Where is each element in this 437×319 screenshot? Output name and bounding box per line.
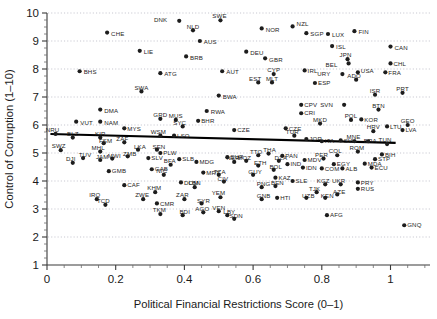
scatter-point-label: SYC xyxy=(173,119,186,126)
scatter-point-label: MLT xyxy=(266,75,278,82)
scatter-point xyxy=(260,26,264,30)
scatter-point-label: COL xyxy=(329,147,342,154)
scatter-point xyxy=(122,183,126,187)
scatter-point-label: BDI xyxy=(179,208,190,215)
scatter-point xyxy=(155,201,159,205)
scatter-point-label: DJI xyxy=(66,155,76,162)
scatter-point-label: ATG xyxy=(164,70,177,77)
scatter-point-label: WSM xyxy=(151,128,166,135)
scatter-point-label: LIE xyxy=(144,48,154,55)
scatter-point-label: BHS xyxy=(84,68,97,75)
scatter-point-label: IDN xyxy=(306,164,317,171)
scatter-point-label: UKR xyxy=(332,177,346,184)
scatter-point xyxy=(304,137,308,141)
scatter-point-label: URY xyxy=(317,70,330,77)
scatter-point-label: SWE xyxy=(212,12,226,19)
scatter-point-label: LBN xyxy=(189,179,201,186)
scatter-point-label: NOR xyxy=(266,26,280,33)
x-tick-label: 0 xyxy=(44,273,50,285)
scatter-point xyxy=(98,108,102,112)
y-tick-label: 9 xyxy=(33,35,39,47)
scatter-point xyxy=(313,81,317,85)
scatter-point-label: ESP xyxy=(318,79,331,86)
scatter-point xyxy=(138,49,142,53)
scatter-point-label: GRD xyxy=(153,111,167,118)
scatter-point-label: PER xyxy=(315,151,328,158)
scatter-point-label: SLB xyxy=(182,155,194,162)
y-tick-label: 2 xyxy=(33,231,39,243)
x-tick-label: 0.2 xyxy=(108,273,124,285)
scatter-point-label: GBR xyxy=(269,56,283,63)
scatter-point-label: RUS xyxy=(361,185,374,192)
scatter-point xyxy=(74,120,78,124)
scatter-point-label: EST xyxy=(249,75,261,82)
scatter-point-label: MNE xyxy=(346,133,360,140)
scatter-point-label: CAN xyxy=(394,44,407,51)
scatter-point xyxy=(299,111,303,115)
scatter-point-label: POL xyxy=(345,112,358,119)
scatter-point xyxy=(263,56,267,60)
scatter-point-label: SVN xyxy=(320,101,333,108)
scatter-point-label: CYP xyxy=(267,66,280,73)
scatter-point-label: ZMB xyxy=(123,150,136,157)
scatter-point-label: ROM xyxy=(350,144,365,151)
scatter-point-label: MOZ xyxy=(237,154,251,161)
scatter-point-label: LSO xyxy=(177,132,190,139)
scatter-point-label: HRV xyxy=(367,123,381,130)
scatter-point-label: BWA xyxy=(223,93,238,100)
scatter-point-label: CHE xyxy=(111,30,124,37)
scatter-point-label: BLZ xyxy=(67,130,79,137)
scatter-point xyxy=(232,128,236,132)
scatter-point xyxy=(198,39,202,43)
scatter-point-label: CPV xyxy=(304,101,318,108)
scatter-point-label: SYR xyxy=(197,197,210,204)
scatter-point-label: GNQ xyxy=(407,221,421,228)
scatter-point-label: AGO xyxy=(195,205,209,212)
scatter-point xyxy=(244,50,248,54)
scatter-point xyxy=(146,156,150,160)
scatter-point-label: SLV xyxy=(151,154,163,161)
scatter-point-label: JAM xyxy=(96,153,109,160)
scatter-point-label: LUX xyxy=(332,31,344,38)
scatter-point xyxy=(184,54,188,58)
scatter-point-label: UZB xyxy=(302,192,315,199)
scatter-point xyxy=(194,160,198,164)
scatter-point xyxy=(285,162,289,166)
scatter-point xyxy=(383,70,387,74)
scatter-point xyxy=(346,61,350,65)
scatter-point xyxy=(196,119,200,123)
scatter-point-label: ALB xyxy=(345,165,357,172)
scatter-plot-figure: 1234567891000.20.40.60.81DNKSWENZLNORNLD… xyxy=(0,0,437,319)
scatter-point xyxy=(340,166,344,170)
scatter-point xyxy=(359,117,363,121)
scatter-point xyxy=(385,124,389,128)
scatter-point-label: RWA xyxy=(211,108,226,115)
scatter-point-label: FRA xyxy=(388,69,401,76)
scatter-point-label: USA xyxy=(361,67,375,74)
y-tick-label: 6 xyxy=(33,119,39,131)
scatter-point xyxy=(177,19,181,23)
scatter-point-label: CIV xyxy=(218,175,229,182)
y-axis-title: Control of Corruption (1–10) xyxy=(3,69,15,209)
scatter-point xyxy=(370,165,374,169)
y-tick-label: 1 xyxy=(33,259,39,271)
y-tick-label: 5 xyxy=(33,147,39,159)
scatter-point-label: CZE xyxy=(237,126,250,133)
scatter-point-label: JPN xyxy=(340,51,352,58)
scatter-point-label: DZA xyxy=(275,154,288,161)
scatter-point-label: AUT xyxy=(226,68,239,75)
scatter-point-label: BOL xyxy=(269,163,282,170)
scatter-point xyxy=(177,157,181,161)
y-tick-label: 10 xyxy=(26,7,39,19)
scatter-point-label: SDN xyxy=(230,212,243,219)
scatter-point-label: TUV xyxy=(79,151,92,158)
scatter-point-label: AZE xyxy=(333,188,345,195)
y-tick-label: 8 xyxy=(33,63,39,75)
scatter-point-label: GEO xyxy=(401,117,415,124)
scatter-point-label: BFA xyxy=(164,157,177,164)
scatter-point-label: MDG xyxy=(199,158,214,165)
scatter-point-label: GUY xyxy=(248,168,262,175)
scatter-point-label: PRT xyxy=(396,85,409,92)
scatter-point-label: ECU xyxy=(375,164,388,171)
y-tick-label: 4 xyxy=(33,175,40,187)
